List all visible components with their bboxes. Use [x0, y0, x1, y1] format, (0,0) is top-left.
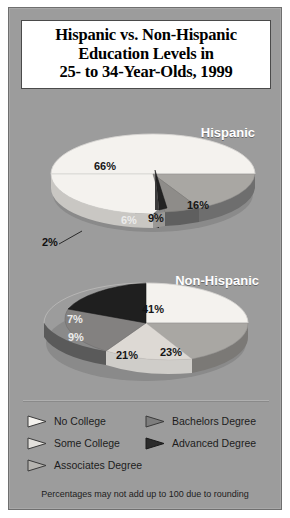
legend-label: Bachelors Degree	[172, 415, 256, 427]
slice-label-hispanic-advanced: 6%	[121, 214, 137, 226]
legend-item-advanced-degree: Advanced Degree	[145, 437, 271, 450]
triangle-marker-icon	[145, 415, 165, 428]
legend-label: Associates Degree	[54, 459, 142, 471]
legend-label: Advanced Degree	[172, 437, 256, 449]
legend-row: Some College Advanced Degree	[27, 432, 271, 454]
slice-label-non-hispanic-no-college: 41%	[142, 303, 164, 315]
legend-label: No College	[54, 415, 106, 427]
slice-label-non-hispanic-advanced: 7%	[67, 313, 83, 325]
legend: No College Bachelors Degree Some College	[27, 410, 271, 476]
legend-item-associates-degree: Associates Degree	[27, 459, 145, 472]
slice-label-hispanic-no-college: 66%	[94, 160, 116, 172]
legend-row: Associates Degree	[27, 454, 271, 476]
slice-label-non-hispanic-bachelors: 23%	[160, 346, 182, 358]
legend-label: Some College	[54, 437, 120, 449]
legend-item-bachelors-degree: Bachelors Degree	[145, 415, 271, 428]
triangle-marker-icon	[27, 459, 47, 472]
slice-label-hispanic-some-college: 9%	[148, 212, 164, 224]
slice-label-non-hispanic-associates: 9%	[68, 331, 84, 343]
slice-label-hispanic-associates: 2%	[42, 236, 58, 248]
title-line-2: Education Levels in	[26, 45, 266, 64]
triangle-marker-icon	[27, 437, 47, 450]
legend-item-some-college: Some College	[27, 437, 145, 450]
legend-item-no-college: No College	[27, 415, 145, 428]
title-line-1: Hispanic vs. Non-Hispanic	[26, 26, 266, 45]
triangle-marker-icon	[27, 415, 47, 428]
pie-chart-hispanic	[49, 136, 261, 240]
legend-divider	[23, 400, 269, 402]
page-title: Hispanic vs. Non-Hispanic Education Leve…	[21, 20, 271, 89]
legend-row: No College Bachelors Degree	[27, 410, 271, 432]
slice-label-hispanic-bachelors: 16%	[187, 199, 209, 211]
title-line-3: 25- to 34-Year-Olds, 1999	[26, 63, 266, 82]
slice-label-non-hispanic-some-college: 21%	[116, 349, 138, 361]
footnote: Percentages may not add up to 100 due to…	[9, 489, 281, 499]
triangle-marker-icon	[145, 437, 165, 450]
poster-frame: Hispanic vs. Non-Hispanic Education Leve…	[8, 7, 282, 510]
